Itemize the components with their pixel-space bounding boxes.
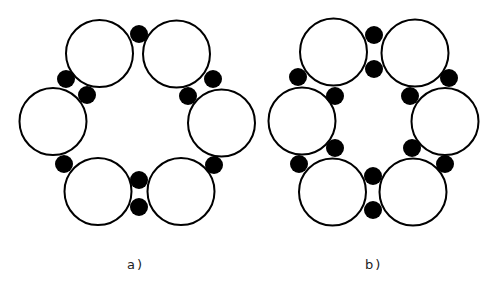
ring-circle-a-2: [143, 21, 210, 88]
ring-circle-a-4: [148, 158, 215, 225]
black-dot-a-9: [78, 86, 96, 104]
ring-circle-b-3: [412, 88, 479, 155]
black-dot-b-7: [364, 167, 382, 185]
black-dot-b-8: [364, 201, 382, 219]
ring-circle-b-5: [299, 159, 366, 226]
black-dot-b-6: [436, 155, 454, 173]
ring-circle-a-5: [65, 158, 132, 225]
black-dot-a-5: [130, 171, 148, 189]
black-dot-a-3: [179, 87, 197, 105]
ring-circle-b-2: [382, 20, 449, 87]
black-dot-a-2: [204, 70, 222, 88]
diagram-a-label: a): [127, 257, 144, 273]
ring-circle-b-1: [300, 19, 367, 86]
diagram-canvas: [0, 0, 495, 294]
ring-circle-b-6: [269, 88, 336, 155]
diagram-a: [20, 20, 256, 225]
black-dot-b-2: [365, 60, 383, 78]
ring-circle-a-1: [66, 20, 133, 87]
black-dot-a-1: [130, 25, 148, 43]
ring-circle-a-3: [188, 90, 255, 157]
diagram-b: [269, 19, 479, 226]
black-dot-b-5: [403, 139, 421, 157]
black-dot-b-10: [326, 139, 344, 157]
black-dot-a-4: [205, 156, 223, 174]
black-dot-b-4: [401, 87, 419, 105]
black-dot-a-6: [130, 198, 148, 216]
black-dot-b-12: [326, 87, 344, 105]
diagram-b-label: b): [365, 257, 382, 273]
black-dot-a-7: [55, 155, 73, 173]
black-dot-b-1: [365, 26, 383, 44]
ring-circle-a-6: [20, 88, 87, 155]
black-dot-b-3: [440, 69, 458, 87]
black-dot-a-8: [57, 70, 75, 88]
black-dot-b-11: [289, 68, 307, 86]
ring-circle-b-4: [380, 159, 447, 226]
black-dot-b-9: [290, 155, 308, 173]
